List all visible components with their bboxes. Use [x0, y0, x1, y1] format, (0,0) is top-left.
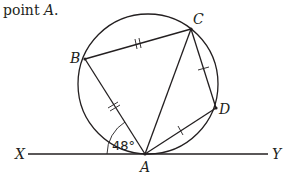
chord-ca — [145, 29, 191, 154]
point-b — [83, 57, 86, 60]
point-c — [189, 27, 192, 30]
point-a — [143, 152, 146, 155]
equal-mark-ab — [108, 102, 120, 111]
label-d: D — [218, 101, 230, 117]
chord-bc — [85, 29, 191, 59]
label-a: A — [138, 159, 150, 175]
label-c: C — [193, 11, 204, 27]
label-y: Y — [272, 146, 283, 162]
circle — [78, 14, 218, 154]
geometry-diagram: B C D A X Y 48° — [0, 0, 301, 181]
label-b: B — [69, 50, 80, 66]
point-d — [214, 106, 217, 109]
angle-label: 48° — [112, 138, 135, 153]
label-x: X — [14, 146, 26, 162]
